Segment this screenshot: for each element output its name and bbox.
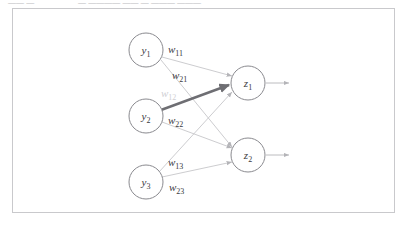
output-arrow-group — [266, 83, 289, 155]
node-z2[interactable]: z2 — [231, 138, 265, 172]
weight-label-w12: w12 — [161, 87, 176, 102]
weight-label-w13: w13 — [168, 156, 183, 171]
screenshot-root: —— — — ———— —— — ——— ——— — [0, 0, 418, 235]
weight-label-w22: w22 — [168, 114, 183, 129]
neural-network-diagram: y1 y2 y3 z1 z2 w11 w21 — [0, 0, 418, 235]
input-layer: y1 y2 y3 — [129, 33, 163, 199]
output-layer: z1 z2 — [231, 66, 265, 172]
weight-label-w23: w23 — [169, 181, 184, 196]
node-y1[interactable]: y1 — [129, 33, 163, 67]
node-z1[interactable]: z1 — [231, 66, 265, 100]
node-y2[interactable]: y2 — [129, 99, 163, 133]
weight-label-w21: w21 — [172, 69, 187, 84]
node-y3[interactable]: y3 — [129, 165, 163, 199]
weight-label-w11: w11 — [168, 43, 183, 58]
